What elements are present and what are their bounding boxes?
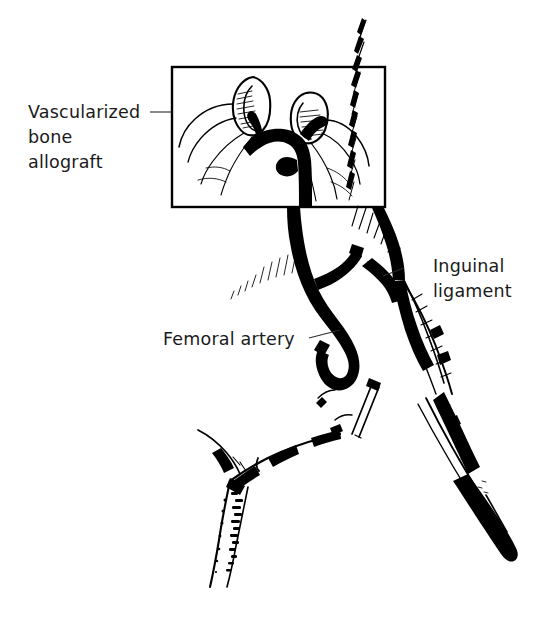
allograft-label-line3: allograft: [28, 152, 103, 172]
inguinal-label-line2: ligament: [433, 281, 512, 301]
allograft-label-line2: bone: [28, 127, 72, 147]
illustration-canvas: Vascularized bone allograft Inguinal lig…: [0, 0, 552, 635]
femoral-label-line1: Femoral artery: [163, 329, 295, 349]
illustration-svg: Vascularized bone allograft Inguinal lig…: [0, 0, 552, 635]
label-femoral-artery: Femoral artery: [163, 329, 295, 349]
canvas-background: [0, 0, 552, 635]
inguinal-label-line1: Inguinal: [433, 256, 505, 276]
allograft-label-line1: Vascularized: [28, 102, 140, 122]
